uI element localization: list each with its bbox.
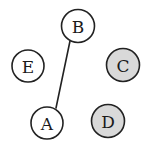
node-b-label: B: [72, 17, 85, 37]
edge-a-b: [56, 41, 70, 108]
graph-canvas: B E C A D: [0, 0, 154, 157]
node-c-label: C: [116, 56, 129, 76]
node-a-label: A: [40, 114, 54, 134]
node-d-label: D: [101, 112, 115, 132]
node-b[interactable]: B: [62, 10, 95, 43]
graph-diagram: B E C A D: [0, 0, 154, 157]
node-a[interactable]: A: [31, 107, 63, 139]
node-e-label: E: [22, 57, 34, 77]
edge-layer: [56, 41, 70, 108]
node-d[interactable]: D: [92, 105, 125, 138]
node-layer: B E C A D: [12, 10, 140, 140]
node-e[interactable]: E: [12, 50, 44, 82]
node-c[interactable]: C: [107, 49, 140, 82]
